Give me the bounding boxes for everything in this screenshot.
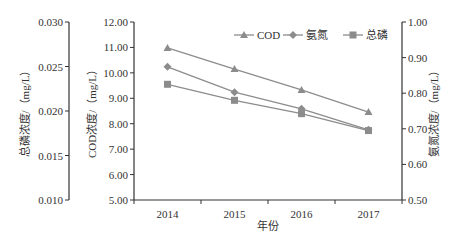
x-axis: 2014201520162017 年份 xyxy=(134,200,402,232)
tick-label: 10.00 xyxy=(103,67,128,79)
x-tick-label: 2016 xyxy=(291,208,314,220)
tick-label: 0.015 xyxy=(38,150,63,162)
tick-label: 7.00 xyxy=(109,143,129,155)
tick-label: 0.010 xyxy=(38,194,63,206)
tick-label: 0.90 xyxy=(408,52,428,64)
tick-label: 0.020 xyxy=(38,105,63,117)
tp-axis: 0.0100.0150.0200.0250.030 总磷浓度/（mg/L） xyxy=(18,16,69,206)
legend-item: 氨氮 xyxy=(283,28,328,41)
tick-label: 0.70 xyxy=(408,123,428,135)
tick-label: 0.60 xyxy=(408,158,428,170)
legend-item: 总磷 xyxy=(343,28,388,41)
tick-label: 0.025 xyxy=(38,61,63,73)
legend: COD氨氮总磷 xyxy=(234,28,388,41)
x-tick-label: 2017 xyxy=(358,208,381,220)
legend-label: 总磷 xyxy=(366,28,388,41)
legend-label: 氨氮 xyxy=(306,28,328,41)
legend-item: COD xyxy=(234,29,280,41)
tick-label: 0.030 xyxy=(38,16,63,28)
legend-label: COD xyxy=(257,29,280,41)
series-tp xyxy=(164,81,372,134)
tick-label: 12.00 xyxy=(103,16,128,28)
tick-label: 8.00 xyxy=(109,118,129,130)
water-quality-chart: 0.0100.0150.0200.0250.030 总磷浓度/（mg/L） 5.… xyxy=(0,0,458,249)
tick-label: 5.00 xyxy=(109,194,129,206)
x-tick-label: 2015 xyxy=(224,208,247,220)
nh3-axis-label: 氨氮浓度/（mg/L） xyxy=(427,65,440,158)
tick-label: 0.50 xyxy=(408,194,428,206)
nh3-axis: 0.500.600.700.800.901.00 氨氮浓度/（mg/L） xyxy=(402,16,440,206)
cod-axis-label: COD浓度/（mg/L） xyxy=(85,64,98,158)
series-cod xyxy=(164,44,373,115)
x-axis-label: 年份 xyxy=(257,219,279,232)
chart-canvas: 0.0100.0150.0200.0250.030 总磷浓度/（mg/L） 5.… xyxy=(0,0,458,249)
tick-label: 9.00 xyxy=(109,92,129,104)
tp-axis-label: 总磷浓度/（mg/L） xyxy=(18,65,31,158)
tick-label: 0.80 xyxy=(408,87,428,99)
tick-label: 6.00 xyxy=(109,169,129,181)
tick-label: 1.00 xyxy=(408,16,428,28)
series-layer xyxy=(164,44,373,134)
tick-label: 11.00 xyxy=(104,41,129,53)
cod-axis: 5.006.007.008.009.0010.0011.0012.00 COD浓… xyxy=(85,16,134,206)
x-tick-label: 2014 xyxy=(157,208,180,220)
